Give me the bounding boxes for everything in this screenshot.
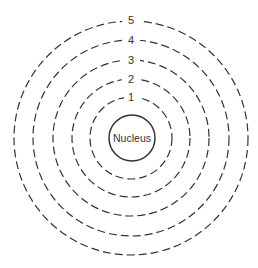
shell-2-label: 2 bbox=[128, 73, 134, 85]
shell-1-label: 1 bbox=[128, 91, 134, 103]
shell-diagram: 5 4 3 2 1 Nucleus bbox=[0, 0, 258, 268]
shell-3-label: 3 bbox=[128, 54, 134, 66]
shell-4-label: 4 bbox=[128, 34, 134, 46]
nucleus: Nucleus bbox=[109, 115, 155, 161]
nucleus-label: Nucleus bbox=[113, 132, 151, 144]
shell-5-label: 5 bbox=[128, 14, 134, 26]
